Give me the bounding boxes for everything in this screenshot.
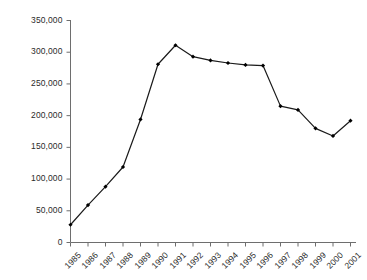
- data-line: [71, 45, 351, 225]
- data-point-marker: [261, 63, 265, 67]
- y-axis-tick-label: 0: [58, 237, 63, 247]
- data-point-marker: [243, 63, 247, 67]
- data-point-marker: [278, 104, 282, 108]
- data-point-marker: [138, 117, 142, 121]
- data-point-marker: [226, 61, 230, 65]
- y-axis-tick-label: 50,000: [36, 205, 63, 215]
- y-axis-tick-label: 250,000: [31, 78, 62, 88]
- x-axis-ticks: [71, 243, 351, 247]
- axes-group: [71, 20, 357, 243]
- line-chart: 050,000100,000150,000200,000250,000300,0…: [0, 0, 367, 280]
- plot-area: [0, 0, 367, 280]
- y-axis-tick-label: 150,000: [31, 141, 62, 151]
- data-markers: [68, 43, 352, 227]
- y-axis-tick-label: 100,000: [31, 173, 62, 183]
- y-axis-ticks: [67, 21, 71, 243]
- y-axis-tick-label: 350,000: [31, 15, 62, 25]
- y-axis-tick-label: 300,000: [31, 46, 62, 56]
- y-axis-tick-label: 200,000: [31, 110, 62, 120]
- data-point-marker: [208, 58, 212, 62]
